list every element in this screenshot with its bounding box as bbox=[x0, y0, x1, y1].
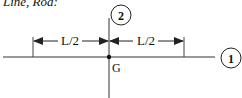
centroid-label: G bbox=[112, 61, 121, 75]
axis-2-label: 2 bbox=[118, 9, 124, 23]
dimension-right-label: L/2 bbox=[137, 33, 155, 48]
axis-1-marker: 1 bbox=[221, 48, 241, 68]
centroid-dot bbox=[107, 55, 111, 59]
dimension-right: L/2 bbox=[110, 33, 183, 48]
dimension-left: L/2 bbox=[34, 33, 108, 48]
rod-diagram: 2 L/2 L/2 G 1 bbox=[0, 0, 242, 98]
dimension-left-label: L/2 bbox=[61, 33, 79, 48]
axis-1-label: 1 bbox=[228, 52, 234, 66]
axis-2-marker: 2 bbox=[111, 5, 131, 25]
